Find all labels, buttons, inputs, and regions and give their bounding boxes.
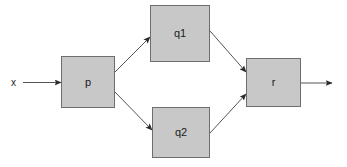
node-p[interactable]: p bbox=[61, 56, 115, 108]
edge-p-to-q1 bbox=[115, 37, 150, 72]
block-diagram-canvas: x p q1 q2 r bbox=[0, 0, 347, 167]
edge-q1-to-r bbox=[210, 31, 246, 72]
node-q2-label: q2 bbox=[175, 127, 187, 138]
edge-p-to-q2 bbox=[115, 92, 152, 130]
input-label-x: x bbox=[11, 78, 16, 88]
node-q1-label: q1 bbox=[174, 28, 186, 39]
edge-q2-to-r bbox=[210, 94, 246, 133]
node-r[interactable]: r bbox=[246, 58, 301, 107]
node-r-label: r bbox=[272, 77, 276, 88]
node-q1[interactable]: q1 bbox=[150, 5, 210, 62]
node-p-label: p bbox=[85, 77, 91, 88]
node-q2[interactable]: q2 bbox=[152, 107, 210, 158]
